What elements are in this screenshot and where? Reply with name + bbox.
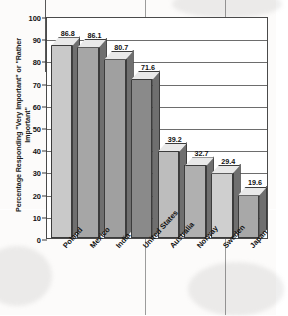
bar-front-face	[131, 79, 152, 238]
bar-item[interactable]	[77, 38, 98, 238]
bar-series: 86.886.180.771.639.232.729.419.6	[47, 18, 267, 238]
bar-front-face	[77, 47, 98, 238]
plot-area: 0102030405060708090100 86.886.180.771.63…	[46, 17, 268, 239]
bar-front-face	[104, 59, 125, 238]
y-axis-title: Percentage Responding "Very Important" o…	[14, 25, 32, 225]
bar-value-label: 86.8	[61, 29, 75, 38]
bar-value-label: 19.6	[248, 178, 262, 187]
bar-value-label: 80.7	[114, 43, 128, 52]
bar-value-label: 29.4	[221, 157, 235, 166]
bar-item[interactable]	[104, 50, 125, 238]
bar-value-label: 32.7	[194, 149, 208, 158]
bar-item[interactable]	[51, 36, 72, 238]
bar-item[interactable]	[131, 70, 152, 238]
bar-value-label: 39.2	[168, 135, 182, 144]
bar-value-label: 86.1	[87, 31, 101, 40]
bar-front-face	[51, 45, 72, 238]
bar-value-label: 71.6	[141, 63, 155, 72]
y-axis-tick-mark	[42, 240, 47, 241]
